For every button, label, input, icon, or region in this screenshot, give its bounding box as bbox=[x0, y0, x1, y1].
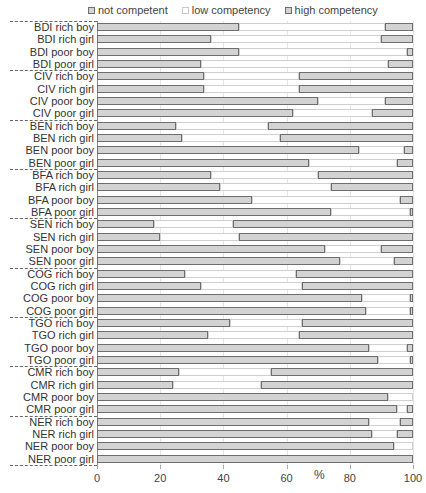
bar-row bbox=[97, 342, 413, 354]
bar-row bbox=[97, 194, 413, 206]
bar-not-competent bbox=[97, 196, 252, 204]
bar-low-competency bbox=[208, 331, 300, 339]
bar-not-competent bbox=[97, 418, 369, 426]
category-label: BDI rich boy bbox=[34, 21, 94, 33]
x-tick-label: 40 bbox=[217, 472, 229, 484]
bar-row bbox=[97, 280, 413, 292]
bar-not-competent bbox=[97, 294, 362, 302]
bar-not-competent bbox=[97, 48, 239, 56]
bar-high-competency bbox=[280, 134, 413, 142]
category-label: NER rich boy bbox=[29, 416, 94, 428]
x-tick-label: 20 bbox=[154, 472, 166, 484]
category-label: TGO poor boy bbox=[24, 342, 94, 354]
bar-low-competency bbox=[201, 282, 302, 290]
bar-low-competency bbox=[369, 344, 407, 352]
legend-item-low-competency: low competency bbox=[182, 4, 271, 16]
bar-row bbox=[97, 243, 413, 255]
category-label: BFA rich girl bbox=[35, 181, 94, 193]
bar-not-competent bbox=[97, 282, 201, 290]
bar-low-competency bbox=[239, 48, 406, 56]
bar-row bbox=[97, 206, 413, 218]
legend-swatch-high-competency bbox=[285, 7, 292, 14]
bar-high-competency bbox=[268, 122, 413, 130]
legend-label: low competency bbox=[192, 4, 271, 16]
bar-low-competency bbox=[182, 134, 280, 142]
bar-low-competency bbox=[359, 146, 403, 154]
bar-row bbox=[97, 317, 413, 329]
category-label: COG poor boy bbox=[23, 292, 94, 304]
legend-label: not competent bbox=[98, 4, 168, 16]
bar-row bbox=[97, 391, 413, 403]
category-label: COG rich boy bbox=[27, 268, 94, 280]
bar-high-competency bbox=[239, 233, 413, 241]
category-label: CIV poor boy bbox=[30, 95, 94, 107]
category-label: BFA poor boy bbox=[28, 194, 94, 206]
category-label: CIV poor girl bbox=[33, 107, 94, 119]
bar-not-competent bbox=[97, 257, 340, 265]
bar-high-competency bbox=[233, 220, 413, 228]
bar-row bbox=[97, 403, 413, 415]
bar-low-competency bbox=[340, 257, 394, 265]
category-label: BEN poor boy bbox=[26, 144, 94, 156]
bar-high-competency bbox=[397, 159, 413, 167]
group-separator bbox=[10, 70, 97, 71]
category-label: BEN poor girl bbox=[29, 157, 94, 169]
plot-area bbox=[97, 21, 413, 465]
gridline bbox=[413, 21, 414, 465]
bar-not-competent bbox=[97, 455, 413, 463]
bar-not-competent bbox=[97, 319, 230, 327]
bar-not-competent bbox=[97, 159, 309, 167]
category-label: TGO rich girl bbox=[32, 329, 94, 341]
category-labels: BDI rich boyBDI rich girlBDI poor boyBDI… bbox=[0, 21, 94, 465]
bar-high-competency bbox=[271, 368, 413, 376]
bar-low-competency bbox=[160, 233, 239, 241]
bar-high-competency bbox=[400, 418, 413, 426]
bar-row bbox=[97, 440, 413, 452]
x-tick-label: 80 bbox=[344, 472, 356, 484]
category-label: SEN rich boy bbox=[30, 218, 94, 230]
bar-not-competent bbox=[97, 307, 366, 315]
bar-low-competency bbox=[211, 35, 382, 43]
x-tick-label: 0 bbox=[94, 472, 100, 484]
bar-high-competency bbox=[385, 23, 413, 31]
bar-row bbox=[97, 107, 413, 119]
bar-high-competency bbox=[299, 85, 413, 93]
bar-not-competent bbox=[97, 331, 208, 339]
bar-high-competency bbox=[302, 282, 413, 290]
category-label: NER poor girl bbox=[28, 453, 94, 465]
bar-row bbox=[97, 416, 413, 428]
group-separator bbox=[10, 218, 97, 219]
bar-low-competency bbox=[220, 183, 331, 191]
category-label: CIV rich boy bbox=[34, 70, 94, 82]
category-label: SEN rich girl bbox=[33, 231, 94, 243]
bar-high-competency bbox=[407, 48, 413, 56]
bar-row bbox=[97, 329, 413, 341]
bar-row bbox=[97, 95, 413, 107]
category-label: CMR poor boy bbox=[23, 391, 94, 403]
bar-high-competency bbox=[381, 35, 413, 43]
x-tick bbox=[413, 465, 414, 469]
category-label: CIV rich girl bbox=[37, 83, 94, 95]
bar-low-competency bbox=[309, 159, 397, 167]
bar-not-competent bbox=[97, 442, 394, 450]
bar-low-competency bbox=[372, 430, 397, 438]
bar-row bbox=[97, 218, 413, 230]
bar-not-competent bbox=[97, 72, 204, 80]
bar-low-competency bbox=[394, 442, 413, 450]
bar-not-competent bbox=[97, 393, 388, 401]
bar-row bbox=[97, 379, 413, 391]
legend-item-not-competent: not competent bbox=[88, 4, 168, 16]
group-separator bbox=[10, 465, 97, 466]
category-label: BDI poor girl bbox=[33, 58, 94, 70]
bar-not-competent bbox=[97, 233, 160, 241]
category-label: CMR rich girl bbox=[30, 379, 94, 391]
bar-not-competent bbox=[97, 109, 293, 117]
bar-high-competency bbox=[296, 270, 413, 278]
bar-row bbox=[97, 292, 413, 304]
bar-high-competency bbox=[404, 146, 413, 154]
bar-low-competency bbox=[204, 85, 299, 93]
bar-high-competency bbox=[410, 208, 413, 216]
bar-low-competency bbox=[362, 294, 409, 302]
category-label: BEN rich boy bbox=[30, 120, 94, 132]
bar-not-competent bbox=[97, 122, 176, 130]
